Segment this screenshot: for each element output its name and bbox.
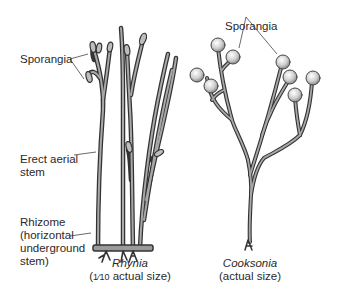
rhizome-label-line4: stem) [20, 255, 49, 268]
rhizome-label-line3: underground [20, 242, 85, 255]
cooksonia-plant [190, 38, 320, 250]
erect-stem-label-line2: stem [20, 166, 45, 179]
rhynia-plant [85, 28, 176, 262]
sporangia-label-cooksonia: Sporangia [225, 20, 277, 33]
cooksonia-name: Cooksonia [210, 257, 290, 270]
rhynia-name: Rhynia [80, 257, 180, 270]
rhynia-scale: (1⁄10 actual size) [89, 270, 171, 282]
rhizome-label-line1: Rhizome [20, 216, 65, 229]
erect-stem-label-line1: Erect aerial [20, 153, 78, 166]
rhizome-shape [93, 245, 153, 251]
rhynia-caption: Rhynia (1⁄10 actual size) [80, 257, 180, 284]
rhizome-label-line2: (horizontal [20, 229, 74, 242]
sporangia-label-rhynia: Sporangia [20, 53, 72, 66]
cooksonia-scale: (actual size) [219, 270, 281, 282]
cooksonia-caption: Cooksonia (actual size) [210, 257, 290, 283]
